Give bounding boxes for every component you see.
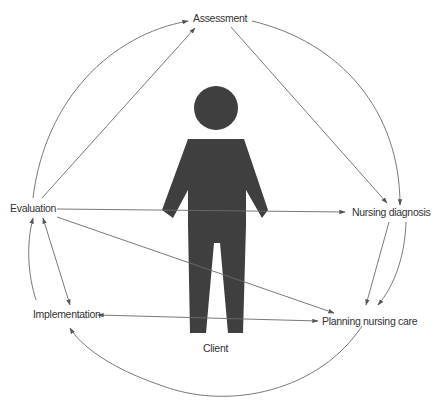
edge-evaluation-to-assessment-arc (33, 21, 188, 198)
edge-implementation-planning-bidirectional (98, 315, 318, 321)
edge-assessment-to-diagnosis-arc (252, 21, 400, 205)
node-planning-nursing-care: Planning nursing care (322, 315, 418, 327)
person-icon (162, 86, 268, 333)
node-nursing-diagnosis: Nursing diagnosis (352, 206, 430, 218)
edge-planning-to-implementation-arc (70, 326, 362, 396)
node-evaluation: Evaluation (10, 202, 56, 214)
edge-evaluation-to-assessment (42, 28, 195, 198)
edge-diagnosis-to-planning-arc (378, 222, 406, 305)
node-assessment: Assessment (193, 12, 248, 24)
edge-implementation-to-evaluation-arc (29, 218, 36, 300)
edge-evaluation-implementation-bidirectional (43, 218, 70, 305)
edge-diagnosis-to-planning (366, 222, 389, 305)
nursing-process-diagram: Assessment Nursing diagnosis Planning nu… (0, 0, 436, 407)
node-implementation: Implementation (33, 308, 101, 320)
center-label-client: Client (203, 342, 228, 354)
